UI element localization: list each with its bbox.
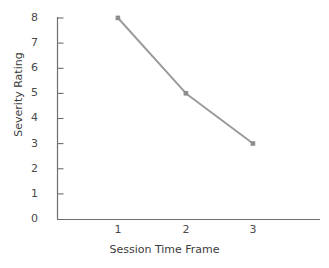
data-point-markers: [116, 16, 256, 146]
data-line-severity-rating: [118, 18, 253, 144]
x-axis-title: Session Time Frame: [0, 243, 329, 256]
data-point-1: [116, 16, 121, 21]
data-point-2: [184, 91, 189, 96]
y-axis-ticks: [58, 18, 64, 194]
y-tick-label-1: 1: [22, 188, 38, 199]
chart-plot-area: [0, 0, 329, 268]
y-tick-label-2: 2: [22, 163, 38, 174]
x-tick-label-2: 2: [178, 224, 194, 235]
y-tick-label-8: 8: [22, 12, 38, 23]
y-axis-title: Severity Rating: [12, 35, 25, 155]
line-chart: 8 7 6 5 4 3 2 1 0 1 2 3 Session Time Fra…: [0, 0, 329, 268]
x-tick-label-3: 3: [245, 224, 261, 235]
y-tick-label-0: 0: [22, 213, 38, 224]
x-tick-label-1: 1: [110, 224, 126, 235]
data-point-3: [251, 141, 256, 146]
